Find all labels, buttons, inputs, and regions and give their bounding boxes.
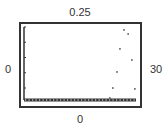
x-axis	[24, 99, 136, 102]
y-axis	[24, 27, 26, 100]
scatter-plot	[0, 0, 166, 128]
data-points	[109, 29, 136, 99]
